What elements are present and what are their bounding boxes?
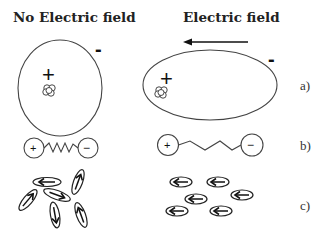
atom-with-field: - + xyxy=(143,48,277,120)
negative-charge-label: - xyxy=(95,38,102,60)
positive-charge-label: + xyxy=(42,62,55,87)
electric-field-arrow-icon xyxy=(183,39,248,46)
dipole-with-field: + − xyxy=(158,134,264,156)
dipole-arrow-icon xyxy=(207,177,229,187)
compressed-spring xyxy=(44,143,78,152)
panel-label-b: b) xyxy=(300,138,311,153)
dipole-arrow-icon xyxy=(16,187,40,213)
negative-pole-sign: − xyxy=(247,138,254,152)
nucleus-icon xyxy=(43,85,55,96)
title-no-electric-field: No Electric field xyxy=(13,9,136,25)
atom-no-field: - + xyxy=(18,38,102,136)
dipole-arrow-icon xyxy=(166,206,188,216)
nucleus-icon xyxy=(155,87,167,98)
panel-label-a: a) xyxy=(300,78,310,93)
random-dipoles xyxy=(16,168,89,229)
dipole-arrow-icon xyxy=(48,201,61,228)
positive-pole-sign: + xyxy=(164,139,170,151)
negative-charge-label: - xyxy=(268,48,275,70)
title-electric-field: Electric field xyxy=(183,9,280,25)
panel-label-c: c) xyxy=(300,198,310,213)
aligned-dipoles xyxy=(166,177,253,216)
dipole-arrow-icon xyxy=(185,194,207,204)
dipole-arrow-icon xyxy=(42,186,71,204)
dipole-arrow-icon xyxy=(69,168,86,196)
dipole-arrow-icon xyxy=(33,178,61,187)
dipole-arrow-icon xyxy=(170,177,192,187)
stretched-spring xyxy=(179,141,242,150)
dipole-arrow-icon xyxy=(231,190,253,200)
negative-pole-sign: − xyxy=(83,141,90,155)
dipole-arrow-icon xyxy=(72,201,89,229)
electron-cloud-sphere xyxy=(18,40,102,136)
polarization-diagram: No Electric field Electric field - + - + xyxy=(0,0,335,233)
dipole-arrow-icon xyxy=(210,206,232,216)
positive-pole-sign: + xyxy=(30,142,36,154)
dipole-no-field: + − xyxy=(24,138,98,158)
